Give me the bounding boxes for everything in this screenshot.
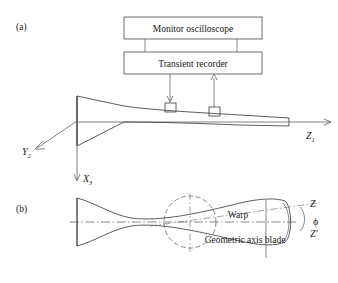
warp-label: Warp [228,210,249,220]
z-geometric-axis-label: Z′ [310,228,319,239]
figure-svg: (a) Monitor oscilloscope Transient recor… [0,0,338,283]
z-axis-label: Z1 [306,130,315,143]
z-warp-axis-label: Z [310,198,316,209]
figure-container: (a) Monitor oscilloscope Transient recor… [0,0,338,283]
transient-recorder-label: Transient recorder [158,59,228,69]
y-axis-arrowhead [35,141,45,149]
panel-b-label: (b) [16,204,27,215]
geometric-axis-blade-label: Geometric axis blade [205,235,286,245]
blade-side-view-outline [77,96,289,146]
panel-a-label: (a) [16,22,27,33]
sensor-response-box [209,107,220,116]
y-axis-label: Y2 [22,146,32,159]
y-axis-line [37,121,77,148]
monitor-oscilloscope-label: Monitor oscilloscope [153,24,233,34]
panel-a: (a) Monitor oscilloscope Transient recor… [16,17,331,186]
phi-angle-arc [300,207,305,231]
panel-b: (b) Warp Geometric axis blade [16,193,319,258]
x-axis-label: X3 [82,173,93,186]
phi-angle-label: ϕ [313,216,318,227]
